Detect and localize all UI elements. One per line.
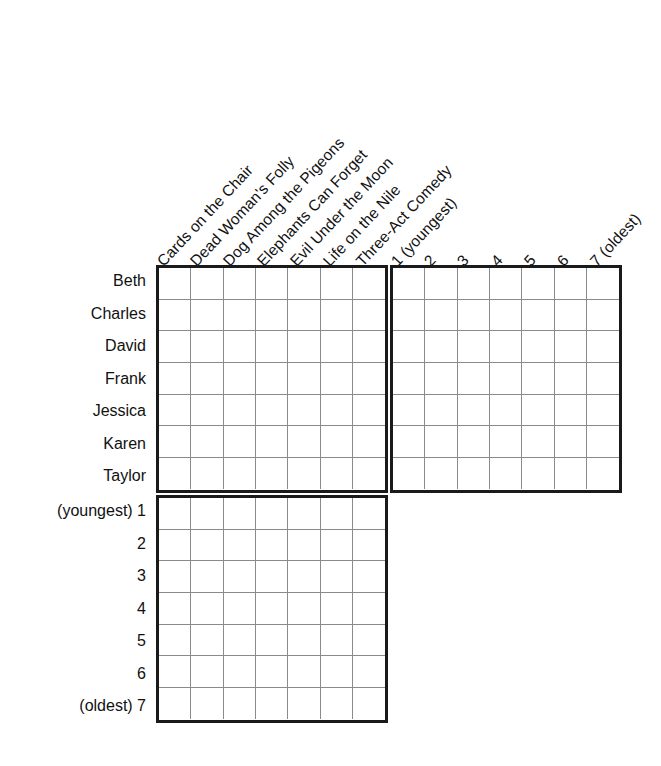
grid-cell[interactable]: [224, 593, 256, 625]
grid-cell[interactable]: [191, 498, 223, 530]
grid-cell[interactable]: [425, 268, 457, 300]
grid-cell[interactable]: [321, 656, 353, 688]
grid-cell[interactable]: [353, 656, 385, 688]
grid-cell[interactable]: [321, 625, 353, 657]
grid-cell[interactable]: [555, 268, 587, 300]
grid-cell[interactable]: [321, 268, 353, 300]
grid-cell[interactable]: [159, 331, 191, 363]
grid-cell[interactable]: [393, 395, 425, 427]
grid-block-people-by-ages[interactable]: [390, 265, 622, 493]
grid-cell[interactable]: [159, 498, 191, 530]
grid-cell[interactable]: [191, 688, 223, 720]
grid-cell[interactable]: [224, 300, 256, 332]
grid-cell[interactable]: [224, 458, 256, 490]
grid-cell[interactable]: [288, 300, 320, 332]
grid-cell[interactable]: [256, 625, 288, 657]
grid-cell[interactable]: [425, 458, 457, 490]
grid-cell[interactable]: [191, 458, 223, 490]
grid-cell[interactable]: [353, 331, 385, 363]
grid-cell[interactable]: [353, 363, 385, 395]
grid-cell[interactable]: [159, 561, 191, 593]
grid-cell[interactable]: [587, 426, 619, 458]
grid-cell[interactable]: [587, 458, 619, 490]
grid-block-ages-by-books[interactable]: [156, 495, 388, 723]
grid-cell[interactable]: [522, 395, 554, 427]
grid-cell[interactable]: [353, 625, 385, 657]
grid-cell[interactable]: [256, 363, 288, 395]
grid-cell[interactable]: [490, 458, 522, 490]
grid-cell[interactable]: [159, 300, 191, 332]
grid-cell[interactable]: [555, 458, 587, 490]
grid-cell[interactable]: [353, 426, 385, 458]
grid-cell[interactable]: [224, 498, 256, 530]
grid-cell[interactable]: [321, 498, 353, 530]
grid-cell[interactable]: [191, 656, 223, 688]
grid-cell[interactable]: [224, 363, 256, 395]
grid-cell[interactable]: [458, 395, 490, 427]
grid-cell[interactable]: [191, 300, 223, 332]
grid-cell[interactable]: [159, 625, 191, 657]
grid-cell[interactable]: [256, 426, 288, 458]
grid-cell[interactable]: [224, 625, 256, 657]
grid-cell[interactable]: [458, 426, 490, 458]
grid-cell[interactable]: [425, 395, 457, 427]
grid-cell[interactable]: [288, 426, 320, 458]
grid-cell[interactable]: [191, 426, 223, 458]
grid-cell[interactable]: [321, 426, 353, 458]
grid-cell[interactable]: [522, 268, 554, 300]
grid-cell[interactable]: [256, 300, 288, 332]
grid-cell[interactable]: [393, 426, 425, 458]
grid-cell[interactable]: [256, 561, 288, 593]
grid-cell[interactable]: [288, 331, 320, 363]
grid-cell[interactable]: [288, 268, 320, 300]
grid-cell[interactable]: [256, 688, 288, 720]
grid-cell[interactable]: [393, 331, 425, 363]
grid-cell[interactable]: [288, 561, 320, 593]
grid-cell[interactable]: [393, 268, 425, 300]
grid-cell[interactable]: [256, 395, 288, 427]
grid-cell[interactable]: [522, 426, 554, 458]
grid-cell[interactable]: [191, 363, 223, 395]
grid-cell[interactable]: [458, 300, 490, 332]
grid-cell[interactable]: [191, 593, 223, 625]
grid-cell[interactable]: [224, 656, 256, 688]
grid-cell[interactable]: [458, 458, 490, 490]
grid-cell[interactable]: [587, 363, 619, 395]
grid-cell[interactable]: [191, 625, 223, 657]
grid-cell[interactable]: [490, 300, 522, 332]
grid-cell[interactable]: [321, 593, 353, 625]
grid-cell[interactable]: [256, 498, 288, 530]
grid-cell[interactable]: [159, 268, 191, 300]
grid-cell[interactable]: [159, 458, 191, 490]
grid-cell[interactable]: [256, 656, 288, 688]
grid-cell[interactable]: [587, 331, 619, 363]
grid-cell[interactable]: [224, 561, 256, 593]
grid-cell[interactable]: [555, 300, 587, 332]
grid-cell[interactable]: [288, 656, 320, 688]
grid-block-people-by-books[interactable]: [156, 265, 388, 493]
grid-cell[interactable]: [321, 331, 353, 363]
grid-cell[interactable]: [159, 395, 191, 427]
grid-cell[interactable]: [288, 593, 320, 625]
grid-cell[interactable]: [256, 458, 288, 490]
grid-cell[interactable]: [321, 363, 353, 395]
grid-cell[interactable]: [191, 561, 223, 593]
grid-cell[interactable]: [555, 395, 587, 427]
grid-cell[interactable]: [425, 300, 457, 332]
grid-cell[interactable]: [159, 530, 191, 562]
grid-cell[interactable]: [256, 331, 288, 363]
grid-cell[interactable]: [490, 331, 522, 363]
grid-cell[interactable]: [224, 395, 256, 427]
grid-cell[interactable]: [224, 688, 256, 720]
grid-cell[interactable]: [458, 268, 490, 300]
grid-cell[interactable]: [393, 458, 425, 490]
grid-cell[interactable]: [224, 331, 256, 363]
grid-cell[interactable]: [353, 530, 385, 562]
grid-cell[interactable]: [353, 395, 385, 427]
grid-cell[interactable]: [288, 498, 320, 530]
grid-cell[interactable]: [256, 268, 288, 300]
grid-cell[interactable]: [321, 458, 353, 490]
grid-cell[interactable]: [522, 363, 554, 395]
grid-cell[interactable]: [353, 593, 385, 625]
grid-cell[interactable]: [288, 363, 320, 395]
